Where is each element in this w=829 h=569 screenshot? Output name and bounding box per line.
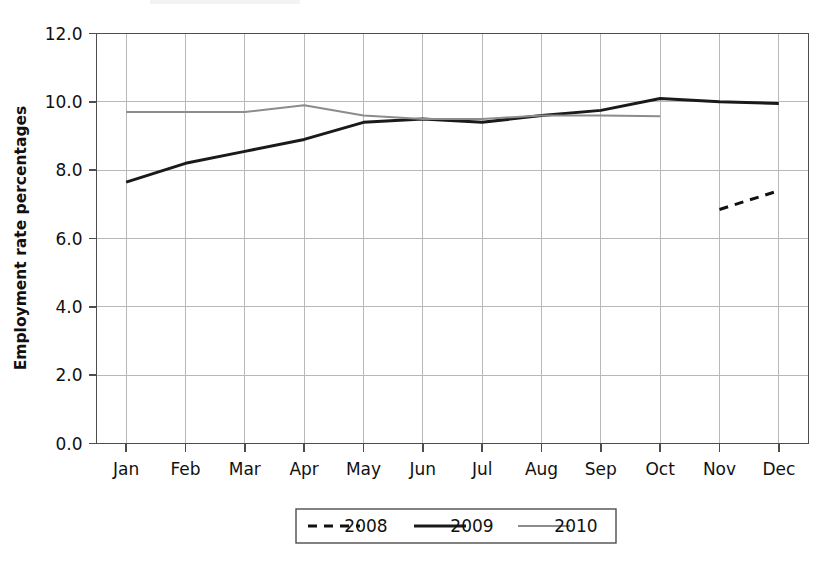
line-chart: 0.02.04.06.08.010.012.0 JanFebMarAprMayJ… bbox=[0, 0, 829, 569]
x-tick-label: Nov bbox=[703, 459, 736, 479]
x-tick-label: May bbox=[346, 459, 381, 479]
x-tick-label: Aug bbox=[525, 459, 558, 479]
x-tick-label: Jun bbox=[409, 459, 437, 479]
x-tick-label: Sep bbox=[585, 459, 617, 479]
x-tick-label: Mar bbox=[229, 459, 261, 479]
legend-label-2010: 2010 bbox=[554, 516, 597, 536]
chart-background bbox=[0, 0, 829, 569]
y-tick-label: 8.0 bbox=[55, 160, 82, 180]
y-tick-label: 6.0 bbox=[55, 229, 82, 249]
x-tick-label: Apr bbox=[289, 459, 318, 479]
y-axis-title: Employment rate percentages bbox=[12, 106, 30, 371]
scan-artifact bbox=[150, 0, 300, 4]
chart-legend[interactable]: 200820092010 bbox=[296, 509, 616, 543]
legend-label-2008: 2008 bbox=[344, 516, 387, 536]
x-tick-label: Dec bbox=[762, 459, 795, 479]
legend-label-2009: 2009 bbox=[450, 516, 493, 536]
y-tick-label: 0.0 bbox=[55, 434, 82, 454]
x-tick-label: Jul bbox=[471, 459, 493, 479]
chart-container: 0.02.04.06.08.010.012.0 JanFebMarAprMayJ… bbox=[0, 0, 829, 569]
y-tick-label: 12.0 bbox=[45, 24, 83, 44]
x-tick-label: Jan bbox=[112, 459, 139, 479]
x-tick-label: Feb bbox=[170, 459, 200, 479]
x-tick-label: Oct bbox=[645, 459, 675, 479]
y-tick-label: 10.0 bbox=[45, 92, 83, 112]
y-tick-label: 2.0 bbox=[55, 365, 82, 385]
y-tick-label: 4.0 bbox=[55, 297, 82, 317]
